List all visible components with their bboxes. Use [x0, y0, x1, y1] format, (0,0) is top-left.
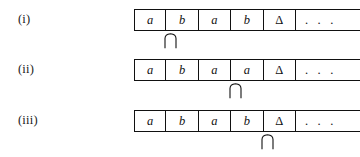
- tape-head-pointer-icon: [164, 33, 177, 49]
- tape-cell: a: [134, 60, 166, 80]
- tape-ii: a b a a Δ . . .: [134, 59, 360, 81]
- figure-canvas: (i) a b a b Δ . . . (ii) a b a a Δ . . .: [0, 0, 360, 157]
- tape-cell: a: [134, 10, 166, 30]
- tape-configuration-row: (i) a b a b Δ . . .: [0, 9, 360, 57]
- tape-cell-ellipsis: . . .: [296, 111, 360, 131]
- row-label-ii: (ii): [18, 62, 62, 77]
- tape-cell-blank: Δ: [264, 60, 296, 80]
- tape-cell: b: [231, 10, 263, 30]
- tape-cell-ellipsis: . . .: [296, 60, 360, 80]
- tape-cell: a: [199, 111, 231, 131]
- tape-cell-blank: Δ: [264, 10, 296, 30]
- tape-configuration-row: (iii) a b a b Δ . . .: [0, 110, 360, 157]
- tape-cell: a: [134, 111, 166, 131]
- tape-iii: a b a b Δ . . .: [134, 110, 360, 132]
- tape-configuration-row: (ii) a b a a Δ . . .: [0, 59, 360, 107]
- tape-head-pointer-icon: [229, 83, 242, 99]
- row-label-i: (i): [18, 12, 62, 27]
- tape-cell: b: [166, 10, 198, 30]
- tape-head-pointer-icon: [261, 134, 274, 150]
- tape-cell: b: [231, 111, 263, 131]
- tape-cell: a: [231, 60, 263, 80]
- tape-cell: a: [199, 60, 231, 80]
- tape-i: a b a b Δ . . .: [134, 9, 360, 31]
- row-label-iii: (iii): [18, 113, 62, 128]
- tape-cell: b: [166, 111, 198, 131]
- tape-cell: a: [199, 10, 231, 30]
- tape-cell-ellipsis: . . .: [296, 10, 360, 30]
- tape-cell: b: [166, 60, 198, 80]
- tape-cell-blank: Δ: [264, 111, 296, 131]
